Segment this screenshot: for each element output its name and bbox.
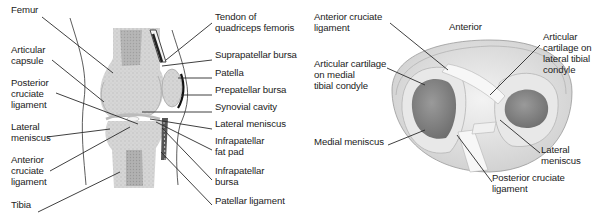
label-articular-capsule: Articular capsule xyxy=(11,44,45,66)
label-articular-cartilage-medial: Articular cartilage on medial tibial con… xyxy=(314,58,386,91)
label-patella: Patella xyxy=(215,67,244,78)
label-infrapatellar-fat-pad: Infrapatellar fat pad xyxy=(215,135,264,157)
label-suprapatellar-bursa: Suprapatellar bursa xyxy=(215,49,297,60)
label-synovial-cavity: Synovial cavity xyxy=(215,101,277,112)
label-infrapatellar-bursa: Infrapatellar bursa xyxy=(215,165,264,187)
label-anterior-orientation: Anterior xyxy=(449,21,482,32)
label-patellar-ligament: Patellar ligament xyxy=(215,195,285,206)
label-plateau-posterior-cruciate-ligament: Posterior cruciate ligament xyxy=(492,172,565,194)
label-plateau-lateral-meniscus: Lateral meniscus xyxy=(541,144,581,166)
label-anterior-cruciate-ligament: Anterior cruciate ligament xyxy=(11,154,46,187)
label-tibia: Tibia xyxy=(11,199,31,210)
label-lateral-meniscus-right: Lateral meniscus xyxy=(215,118,286,129)
label-posterior-cruciate-ligament: Posterior cruciate ligament xyxy=(11,77,49,110)
label-plateau-anterior-cruciate-ligament: Anterior cruciate ligament xyxy=(314,11,382,33)
knee-joint-diagram: Femur Articular capsule Posterior crucia… xyxy=(0,0,604,215)
label-articular-cartilage-lateral: Articular cartilage on lateral tibial co… xyxy=(543,31,591,75)
label-medial-meniscus: Medial meniscus xyxy=(314,136,384,147)
label-femur: Femur xyxy=(11,4,38,15)
label-tendon-of-quadriceps-femoris: Tendon of quadriceps femoris xyxy=(215,11,294,33)
sagittal-knee-illustration xyxy=(70,18,188,188)
label-prepatellar-bursa: Prepatellar bursa xyxy=(215,84,286,95)
label-lateral-meniscus-left: Lateral meniscus xyxy=(11,121,51,143)
